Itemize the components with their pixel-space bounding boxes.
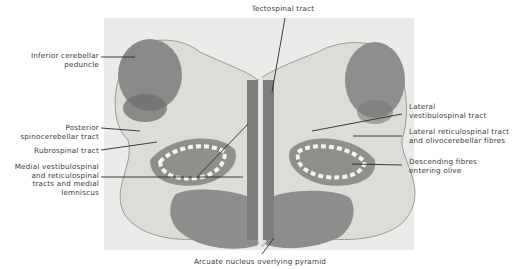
label-line: Rubrospinal tract: [0, 147, 99, 156]
label-lateral-reticulospinal-tract: Lateral reticulospinal tract and olivoce…: [409, 128, 521, 145]
label-line: peduncle: [0, 61, 99, 70]
right-mottled: [357, 100, 393, 124]
label-line: spinocerebellar tract: [0, 133, 99, 142]
label-descending-fibres: Descending fibres entering olive: [409, 158, 521, 175]
label-inferior-cerebellar-peduncle: Inferior cerebellar peduncle: [0, 52, 99, 69]
label-line: and olivocerebellar fibres: [409, 137, 521, 146]
label-line: Arcuate nucleus overlying pyramid: [170, 258, 350, 267]
label-line: vestibulospinal tract: [409, 112, 521, 121]
label-line: Tectospinal tract: [228, 5, 338, 14]
label-medial-vestibulospinal: Medial vestibulospinal and reticulospina…: [0, 163, 99, 197]
label-lateral-vestibulospinal-tract: Lateral vestibulospinal tract: [409, 103, 521, 120]
label-tectospinal-tract: Tectospinal tract: [228, 5, 338, 14]
medulla-section-figure: Tectospinal tract Inferior cerebellar pe…: [0, 0, 521, 269]
label-arcuate-nucleus: Arcuate nucleus overlying pyramid: [170, 258, 350, 267]
left-medial-column: [247, 80, 258, 240]
label-line: lemniscus: [0, 189, 99, 198]
left-mottled: [123, 94, 167, 122]
right-medial-column: [263, 80, 274, 240]
label-rubrospinal-tract: Rubrospinal tract: [0, 147, 99, 156]
label-posterior-spinocerebellar-tract: Posterior spinocerebellar tract: [0, 124, 99, 141]
label-line: entering olive: [409, 167, 521, 176]
